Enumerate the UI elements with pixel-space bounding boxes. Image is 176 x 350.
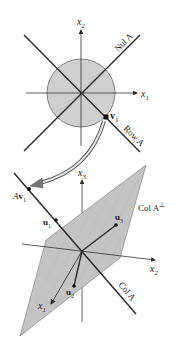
nul-a-label: Nul A [112, 31, 135, 54]
u1-point [54, 218, 58, 222]
av1-point [27, 187, 31, 191]
x3-axis-label: x3 [77, 167, 86, 181]
row-space-figure: x2 x1 Nul A Row A v1 [24, 16, 149, 152]
av1-label: Av1 [12, 191, 26, 203]
u2-point [72, 284, 76, 288]
u1-label: u1 [43, 217, 51, 229]
col-a-label: Col A [116, 280, 138, 303]
x2-axis-label-bottom: x2 [149, 263, 158, 277]
v1-label: v1 [110, 110, 119, 124]
x1-axis-label-top: x1 [140, 88, 149, 102]
svd-diagram: x2 x1 Nul A Row A v1 x3 Av1 [0, 0, 176, 350]
v1-point [104, 115, 109, 120]
row-a-label: Row A [122, 123, 147, 148]
mapping-arrow [30, 121, 104, 188]
x2-axis-label-top: x2 [76, 16, 85, 30]
col-a-perp-label: Col A⊥ [138, 201, 165, 213]
u3-point [114, 223, 118, 227]
column-space-figure: x3 Av1 u1 u3 u2 x1 x2 Col A⊥ Col A [12, 165, 165, 336]
